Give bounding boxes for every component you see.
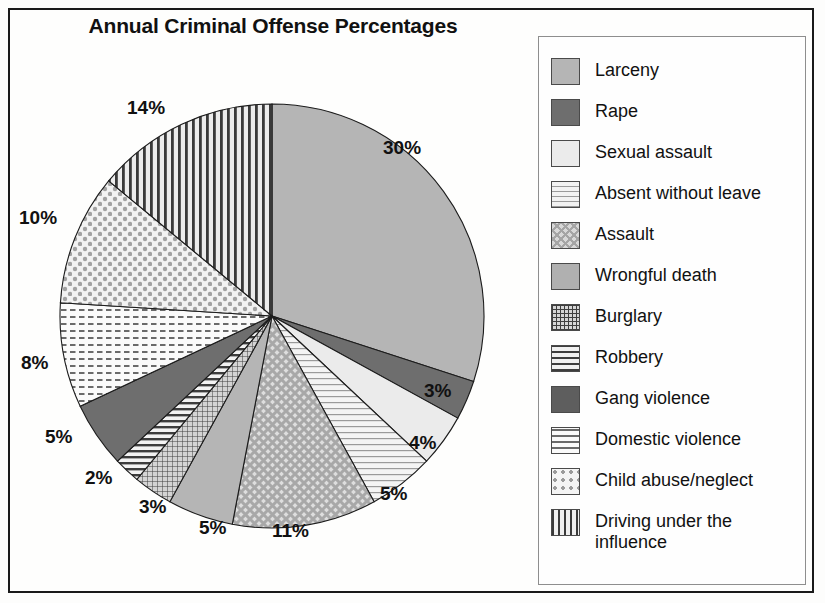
legend: LarcenyRapeSexual assaultAbsent without … — [538, 36, 806, 585]
legend-item-label: Driving under the influence — [595, 506, 799, 553]
legend-item-label: Absent without leave — [595, 178, 761, 204]
legend-item[interactable]: Driving under the influence — [551, 506, 799, 580]
pie-slice-value-label: 10% — [19, 207, 57, 229]
pie-svg — [52, 96, 492, 536]
legend-item[interactable]: Domestic violence — [551, 424, 799, 465]
legend-swatch-icon — [551, 222, 580, 249]
legend-swatch-icon — [551, 386, 580, 413]
pie-slice-group — [60, 104, 484, 528]
legend-item-label: Sexual assault — [595, 137, 712, 163]
legend-item-label: Robbery — [595, 342, 663, 368]
pie-slice-value-label: 11% — [272, 520, 309, 542]
pie-slice-value-label: 3% — [139, 496, 166, 518]
pie-slice-value-label: 5% — [199, 517, 226, 539]
legend-list: LarcenyRapeSexual assaultAbsent without … — [551, 55, 799, 580]
pie-slice-value-label: 14% — [127, 97, 165, 119]
legend-swatch-icon — [551, 427, 580, 454]
page-title: Annual Criminal Offense Percentages — [28, 14, 518, 38]
legend-item[interactable]: Sexual assault — [551, 137, 799, 178]
legend-item[interactable]: Child abuse/neglect — [551, 465, 799, 506]
pie-slice-value-label: 2% — [85, 467, 112, 489]
pie-slice-value-label: 5% — [45, 426, 72, 448]
legend-item-label: Child abuse/neglect — [595, 465, 753, 491]
legend-swatch-icon — [551, 345, 580, 372]
legend-item[interactable]: Robbery — [551, 342, 799, 383]
legend-item[interactable]: Assault — [551, 219, 799, 260]
legend-item[interactable]: Absent without leave — [551, 178, 799, 219]
legend-item-label: Burglary — [595, 301, 662, 327]
legend-item[interactable]: Rape — [551, 96, 799, 137]
pie-slice-value-label: 5% — [380, 483, 407, 505]
legend-swatch-icon — [551, 263, 580, 290]
legend-swatch-icon — [551, 181, 580, 208]
legend-swatch-icon — [551, 58, 580, 85]
pie-chart — [52, 96, 492, 536]
legend-swatch-icon — [551, 509, 580, 536]
legend-swatch-icon — [551, 99, 580, 126]
legend-item-label: Wrongful death — [595, 260, 717, 286]
legend-item-label: Gang violence — [595, 383, 710, 409]
legend-item-label: Assault — [595, 219, 654, 245]
legend-item[interactable]: Gang violence — [551, 383, 799, 424]
legend-swatch-icon — [551, 140, 580, 167]
pie-slice-value-label: 3% — [424, 380, 451, 402]
legend-item-label: Domestic violence — [595, 424, 741, 450]
legend-item[interactable]: Burglary — [551, 301, 799, 342]
legend-item-label: Rape — [595, 96, 638, 122]
pie-slice-value-label: 4% — [409, 432, 436, 454]
pie-slice-value-label: 30% — [383, 137, 421, 159]
legend-item[interactable]: Wrongful death — [551, 260, 799, 301]
legend-item[interactable]: Larceny — [551, 55, 799, 96]
legend-swatch-icon — [551, 304, 580, 331]
pie-slice-value-label: 8% — [21, 352, 48, 374]
legend-swatch-icon — [551, 468, 580, 495]
legend-item-label: Larceny — [595, 55, 659, 81]
chart-screenshot: Annual Criminal Offense Percentages — [0, 0, 825, 603]
